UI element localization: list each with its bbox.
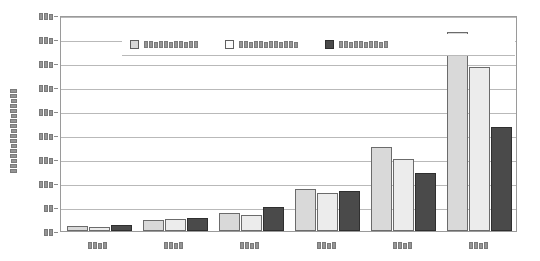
y-tick-mark	[54, 208, 58, 209]
y-tick-label	[39, 127, 54, 145]
y-axis-tick-labels	[20, 16, 58, 232]
y-tick-mark	[54, 136, 58, 137]
bar[interactable]	[447, 32, 468, 231]
bar[interactable]	[371, 147, 392, 231]
y-tick-label	[39, 103, 54, 121]
y-tick-mark	[54, 16, 58, 17]
y-tick-label-text	[39, 133, 54, 140]
x-tick-label	[240, 236, 260, 254]
bar[interactable]	[219, 213, 240, 231]
x-tick-label	[88, 236, 108, 254]
y-tick-mark	[54, 184, 58, 185]
x-tick-label-text	[469, 242, 489, 249]
x-tick-label	[164, 236, 184, 254]
x-tick-label-text	[317, 242, 337, 249]
legend-item-label	[339, 41, 389, 48]
y-tick-label	[39, 31, 54, 49]
y-tick-mark	[54, 88, 58, 89]
legend-swatch-icon	[325, 40, 334, 49]
bar[interactable]	[143, 220, 164, 231]
legend-swatch-icon	[225, 40, 234, 49]
y-tick-label	[44, 223, 54, 241]
y-tick-label-text	[39, 181, 54, 188]
x-tick-label-text	[88, 242, 108, 249]
y-tick-label	[39, 55, 54, 73]
bar[interactable]	[89, 227, 110, 231]
y-tick-label	[39, 7, 54, 25]
legend-item-label	[239, 41, 299, 48]
bar[interactable]	[111, 225, 132, 231]
y-tick-label-text	[39, 37, 54, 44]
x-axis-tick-labels	[60, 236, 517, 252]
bar[interactable]	[295, 189, 316, 231]
y-tick-mark	[54, 40, 58, 41]
y-tick-mark	[54, 64, 58, 65]
legend-item[interactable]	[325, 40, 389, 49]
y-tick-mark	[54, 112, 58, 113]
legend-item[interactable]	[130, 40, 199, 49]
bar[interactable]	[241, 215, 262, 231]
x-tick-label	[469, 236, 489, 254]
bar[interactable]	[415, 173, 436, 231]
bar[interactable]	[339, 191, 360, 231]
bar[interactable]	[491, 127, 512, 231]
bar[interactable]	[187, 218, 208, 231]
bar[interactable]	[393, 159, 414, 231]
y-tick-label-text	[44, 229, 54, 236]
x-tick-label-text	[240, 242, 260, 249]
y-tick-label-text	[39, 13, 54, 20]
x-tick-label	[393, 236, 413, 254]
bar[interactable]	[263, 207, 284, 231]
y-axis-title-text	[10, 88, 17, 173]
x-tick-label-text	[164, 242, 184, 249]
y-tick-label-text	[39, 61, 54, 68]
chart-legend	[122, 34, 515, 56]
bar-chart	[0, 0, 540, 261]
bar[interactable]	[317, 193, 338, 231]
y-tick-label	[39, 175, 54, 193]
plot-area	[60, 16, 517, 232]
y-tick-label	[44, 199, 54, 217]
y-tick-label	[39, 151, 54, 169]
x-tick-label	[317, 236, 337, 254]
legend-swatch-icon	[130, 40, 139, 49]
y-tick-mark	[54, 160, 58, 161]
bar[interactable]	[165, 219, 186, 231]
y-tick-label	[39, 79, 54, 97]
y-tick-label-text	[39, 109, 54, 116]
legend-item-label	[144, 41, 199, 48]
y-tick-mark	[54, 232, 58, 233]
x-tick-label-text	[393, 242, 413, 249]
bar[interactable]	[67, 226, 88, 231]
y-tick-label-text	[39, 157, 54, 164]
y-tick-label-text	[44, 205, 54, 212]
legend-item[interactable]	[225, 40, 299, 49]
bar[interactable]	[469, 67, 490, 231]
y-tick-label-text	[39, 85, 54, 92]
